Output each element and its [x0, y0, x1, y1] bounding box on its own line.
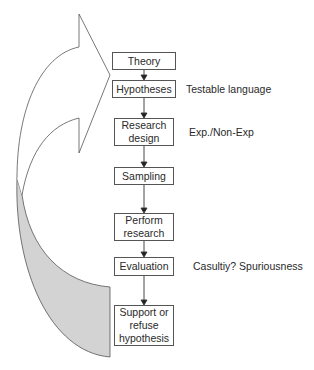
step-label: Evaluation [119, 260, 168, 273]
step-label: Research design [115, 119, 173, 145]
step-evaluation: Evaluation [114, 257, 174, 276]
arrow-shadow [17, 178, 110, 357]
step-support-or-refuse: Support or refuse hypothesis [114, 305, 174, 346]
step-label: Hypotheses [116, 83, 171, 96]
step-perform-research: Perform research [114, 213, 174, 241]
step-label: Theory [128, 55, 161, 68]
step-label: Sampling [122, 170, 166, 183]
step-label: Perform research [115, 214, 173, 240]
note-evaluation: Casultiy? Spuriousness [193, 260, 303, 272]
note-research-design: Exp./Non-Exp [189, 126, 254, 138]
step-label: Support or refuse hypothesis [115, 306, 173, 345]
step-sampling: Sampling [114, 167, 174, 185]
arrow-body [17, 14, 110, 195]
note-hypotheses: Testable language [186, 83, 271, 95]
step-research-design: Research design [114, 118, 174, 146]
step-theory: Theory [112, 52, 176, 70]
step-hypotheses: Hypotheses [112, 80, 176, 98]
